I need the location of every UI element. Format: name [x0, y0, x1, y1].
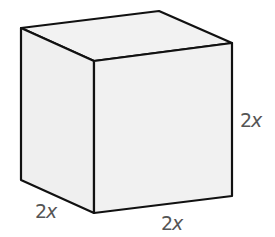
width-coefficient: 2	[161, 212, 172, 234]
depth-coefficient: 2	[35, 200, 46, 222]
height-variable: x	[251, 109, 261, 131]
depth-variable: x	[46, 200, 56, 222]
cube-front-face	[94, 43, 232, 213]
depth-label: 2x	[35, 202, 56, 221]
height-label: 2x	[240, 111, 261, 130]
width-label: 2x	[161, 214, 182, 233]
width-variable: x	[172, 212, 182, 234]
cube-left-face	[21, 28, 94, 213]
height-coefficient: 2	[240, 109, 251, 131]
